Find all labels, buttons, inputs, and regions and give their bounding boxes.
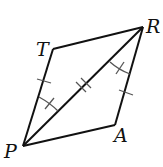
vertex-label-p: P [3, 140, 18, 162]
vertex-label-r: R [145, 15, 160, 37]
vertex-label-t: T [36, 38, 50, 60]
vertex-label-a: A [112, 124, 128, 146]
tick-mark-ra [119, 90, 133, 95]
angle-tick-tpr [45, 98, 54, 109]
segment-ap [23, 125, 115, 146]
tick-mark-pr-1 [76, 82, 86, 92]
segment-tr [53, 27, 143, 49]
geometry-figure: P T R A [0, 0, 163, 167]
